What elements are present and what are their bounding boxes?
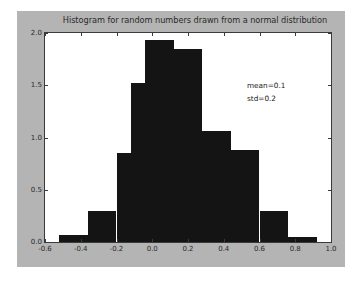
x-tick-mark <box>117 239 118 242</box>
y-tick-label: 1.0 <box>31 134 42 142</box>
x-tick-label: 0.2 <box>182 245 193 253</box>
x-tick-label: 0.4 <box>218 245 229 253</box>
figure-canvas: Histogram for random numbers drawn from … <box>17 11 345 267</box>
chart-title: Histogram for random numbers drawn from … <box>45 15 345 25</box>
x-tick-label: 0.0 <box>147 245 158 253</box>
x-tick-mark <box>295 239 296 242</box>
x-tick-mark-top <box>331 33 332 36</box>
x-tick-mark <box>224 239 225 242</box>
x-axis-ticks: -0.6-0.4-0.20.00.20.40.60.81.0 <box>45 33 331 242</box>
x-tick-label: -0.6 <box>38 245 52 253</box>
x-tick-mark-top <box>45 33 46 36</box>
x-tick-mark <box>331 239 332 242</box>
y-tick-mark-right <box>328 242 331 243</box>
x-tick-mark-top <box>224 33 225 36</box>
y-tick-mark <box>45 242 48 243</box>
y-tick-label: 2.0 <box>31 29 42 37</box>
x-tick-mark-top <box>117 33 118 36</box>
x-tick-mark <box>81 239 82 242</box>
x-tick-mark <box>45 239 46 242</box>
x-tick-mark-top <box>295 33 296 36</box>
x-tick-mark-top <box>152 33 153 36</box>
x-tick-mark <box>152 239 153 242</box>
y-tick-label: 0.5 <box>31 186 42 194</box>
x-tick-label: 0.8 <box>290 245 301 253</box>
annotation-std: std=0.2 <box>247 92 285 105</box>
x-tick-label: -0.2 <box>110 245 124 253</box>
annotation-mean: mean=0.1 <box>247 79 285 92</box>
x-tick-mark-top <box>81 33 82 36</box>
x-tick-mark <box>188 239 189 242</box>
y-tick-label: 1.5 <box>31 81 42 89</box>
x-tick-mark-top <box>260 33 261 36</box>
stats-annotation: mean=0.1 std=0.2 <box>247 79 285 105</box>
x-tick-label: 1.0 <box>325 245 336 253</box>
x-tick-mark <box>260 239 261 242</box>
x-tick-mark-top <box>188 33 189 36</box>
plot-area: 0.00.51.01.52.0 -0.6-0.4-0.20.00.20.40.6… <box>44 32 332 243</box>
x-tick-label: -0.4 <box>74 245 88 253</box>
x-tick-label: 0.6 <box>254 245 265 253</box>
